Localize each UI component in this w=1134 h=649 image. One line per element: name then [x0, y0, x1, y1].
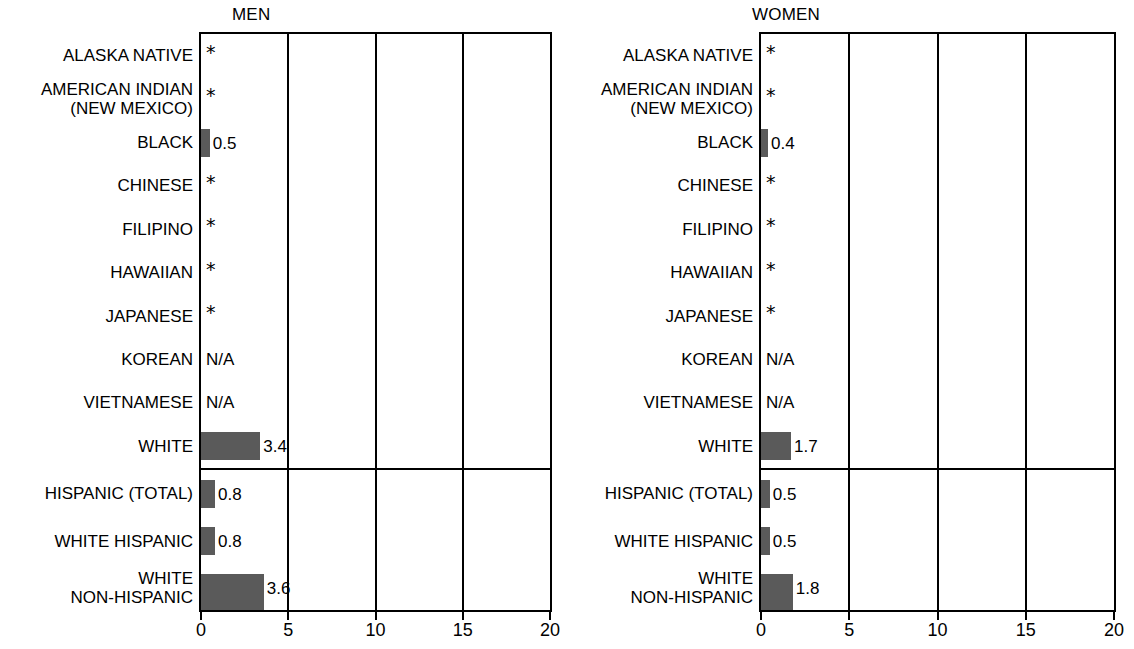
axis-tick [375, 612, 377, 620]
value-label: 1.8 [796, 580, 820, 597]
axis-tick [549, 612, 551, 620]
axis-tick [1025, 612, 1027, 620]
category-label: WHITE NON-HISPANIC [0, 569, 193, 607]
bar [761, 480, 770, 508]
category-label: ALASKA NATIVE [570, 46, 753, 65]
value-label: 0.5 [773, 486, 797, 503]
gridline-5 [848, 34, 850, 610]
category-label: VIETNAMESE [0, 393, 193, 412]
panel-women: WOMEN ALASKA NATIVE*AMERICAN INDIAN (NEW… [560, 0, 1134, 649]
marker-asterisk: * [766, 44, 776, 61]
marker-asterisk: * [206, 261, 216, 278]
axis-tick-label: 15 [440, 620, 486, 640]
value-label: 0.8 [218, 533, 242, 550]
bar [201, 129, 210, 157]
value-label: 3.6 [267, 580, 291, 597]
axis-tick [462, 612, 464, 620]
gridline-15 [462, 34, 464, 610]
axis-tick-label: 5 [265, 620, 311, 640]
axis-tick [937, 612, 939, 620]
value-label: 0.8 [218, 486, 242, 503]
category-label: JAPANESE [570, 307, 753, 326]
axis-tick-label: 10 [915, 620, 961, 640]
category-label: FILIPINO [0, 220, 193, 239]
axis-tick [760, 612, 762, 620]
category-label: WHITE [570, 437, 753, 456]
gridline-10 [937, 34, 939, 610]
plot-area-men [199, 32, 552, 612]
axis-tick-label: 15 [1003, 620, 1049, 640]
marker-na: N/A [766, 394, 794, 411]
bar [201, 574, 264, 610]
category-label: KOREAN [570, 350, 753, 369]
plot-area-women [759, 32, 1116, 612]
category-label: ALASKA NATIVE [0, 46, 193, 65]
marker-asterisk: * [766, 217, 776, 234]
marker-asterisk: * [206, 44, 216, 61]
value-label: 0.5 [773, 533, 797, 550]
section-divider [761, 468, 1114, 470]
gridline-10 [375, 34, 377, 610]
category-label: FILIPINO [570, 220, 753, 239]
panel-title-men: MEN [232, 4, 270, 26]
axis-tick-label: 5 [826, 620, 872, 640]
bar [201, 527, 215, 555]
marker-asterisk: * [206, 304, 216, 321]
category-label: HISPANIC (TOTAL) [570, 484, 753, 503]
value-label: 1.7 [794, 438, 818, 455]
bar [761, 574, 793, 610]
marker-asterisk: * [766, 304, 776, 321]
axis-tick-label: 0 [178, 620, 224, 640]
bar [761, 432, 791, 460]
marker-na: N/A [206, 394, 234, 411]
bar [761, 527, 770, 555]
category-label: VIETNAMESE [570, 393, 753, 412]
category-label: WHITE HISPANIC [570, 532, 753, 551]
category-label: HAWAIIAN [0, 263, 193, 282]
axis-tick-label: 0 [738, 620, 784, 640]
category-label: CHINESE [570, 176, 753, 195]
marker-na: N/A [766, 351, 794, 368]
category-label: WHITE NON-HISPANIC [570, 569, 753, 607]
category-label: BLACK [570, 133, 753, 152]
category-label: KOREAN [0, 350, 193, 369]
category-label: JAPANESE [0, 307, 193, 326]
marker-na: N/A [206, 351, 234, 368]
axis-tick [200, 612, 202, 620]
marker-asterisk: * [766, 174, 776, 191]
bar [201, 432, 260, 460]
bar [761, 129, 768, 157]
gridline-15 [1025, 34, 1027, 610]
chart-figure: MEN ALASKA NATIVE*AMERICAN INDIAN (NEW M… [0, 0, 1134, 649]
marker-asterisk: * [766, 261, 776, 278]
axis-tick-label: 20 [1091, 620, 1134, 640]
marker-asterisk: * [206, 174, 216, 191]
axis-tick-label: 10 [353, 620, 399, 640]
value-label: 0.4 [771, 135, 795, 152]
section-divider [201, 468, 550, 470]
marker-asterisk: * [206, 87, 216, 104]
bar [201, 480, 215, 508]
marker-asterisk: * [206, 217, 216, 234]
category-label: WHITE HISPANIC [0, 532, 193, 551]
axis-tick [1113, 612, 1115, 620]
value-label: 0.5 [213, 135, 237, 152]
axis-tick [848, 612, 850, 620]
category-label: BLACK [0, 133, 193, 152]
category-label: HISPANIC (TOTAL) [0, 484, 193, 503]
axis-tick [287, 612, 289, 620]
gridline-5 [287, 34, 289, 610]
panel-title-women: WOMEN [752, 4, 820, 26]
panel-men: MEN ALASKA NATIVE*AMERICAN INDIAN (NEW M… [0, 0, 567, 649]
category-label: AMERICAN INDIAN (NEW MEXICO) [570, 80, 753, 118]
category-label: AMERICAN INDIAN (NEW MEXICO) [0, 80, 193, 118]
category-label: CHINESE [0, 176, 193, 195]
category-label: WHITE [0, 437, 193, 456]
marker-asterisk: * [766, 87, 776, 104]
value-label: 3.4 [263, 438, 287, 455]
category-label: HAWAIIAN [570, 263, 753, 282]
